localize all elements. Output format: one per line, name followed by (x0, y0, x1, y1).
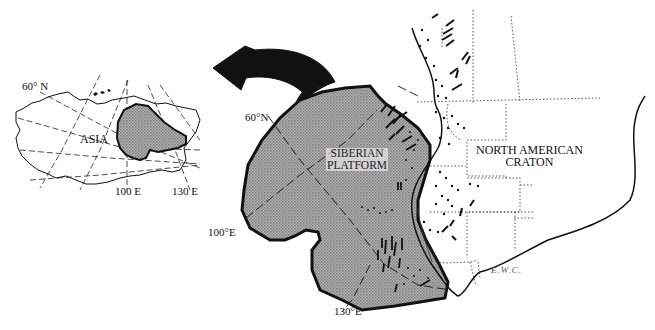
main-longitude-130-label: 130°E (334, 306, 362, 317)
rotation-arrow-icon (213, 46, 335, 92)
inset-longitude-130-label: 130 E (172, 186, 198, 197)
main-latitude-60-label: 60°N (245, 112, 268, 123)
inset-longitude-100-label: 100 E (115, 186, 141, 197)
craton-label-line2: CRATON (476, 156, 583, 168)
inset-latitude-label: 60° N (22, 81, 48, 92)
main-longitude-100-label: 100°E (208, 227, 236, 238)
asia-islands (93, 89, 111, 96)
reconstruction-diagram: 60° N ASIA 100 E 130 E 60°N 100°E 130°E … (0, 0, 655, 330)
siberian-platform-label: SIBERIAN PLATFORM (326, 148, 388, 171)
siberian-platform-shape (242, 86, 448, 310)
siberian-platform-label-line2: PLATFORM (327, 160, 387, 172)
siberian-platform-map (242, 86, 450, 312)
inset-asia-label: ASIA (80, 133, 108, 145)
north-american-craton-label: NORTH AMERICAN CRATON (476, 144, 583, 168)
siberian-platform-label-line1: SIBERIAN (327, 148, 387, 160)
author-signature: E.W.C. (491, 266, 522, 275)
craton-stipple (419, 29, 479, 233)
